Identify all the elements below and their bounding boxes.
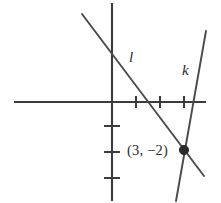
point-coordinate-label: (3, −2): [127, 143, 168, 158]
graph-canvas: [0, 0, 221, 203]
line-l-label: l: [129, 50, 133, 65]
intersection-point-dot: [179, 145, 188, 154]
coordinate-graph-figure: l k (3, −2): [0, 0, 221, 203]
line-k-label: k: [182, 63, 189, 78]
graph-lines-group: [82, 14, 206, 201]
line-k: [176, 31, 206, 201]
axes-group: [14, 3, 206, 201]
